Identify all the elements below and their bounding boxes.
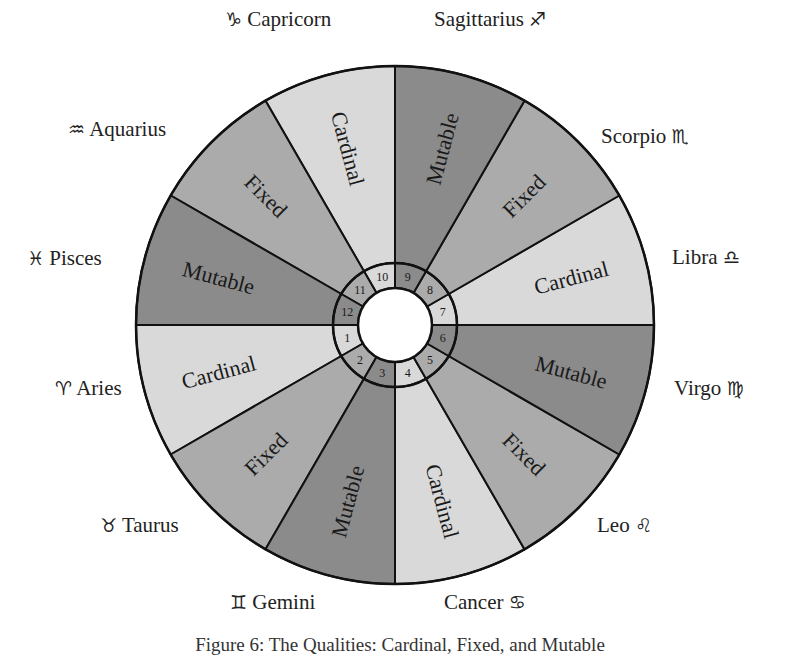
- sign-name: Pisces: [49, 246, 102, 270]
- cancer-glyph-icon: ♋: [509, 591, 526, 613]
- sign-name: Aries: [76, 376, 122, 400]
- sign-label-pisces: ♓ Pisces: [27, 248, 102, 269]
- pisces-glyph-icon: ♓: [27, 247, 44, 269]
- sign-name: Gemini: [252, 590, 315, 614]
- house-number: 4: [405, 366, 411, 380]
- house-number: 6: [440, 331, 446, 345]
- sign-name: Scorpio: [601, 124, 666, 148]
- house-number: 9: [405, 270, 411, 284]
- house-number: 3: [379, 366, 385, 380]
- libra-glyph-icon: ♎: [723, 246, 740, 268]
- house-number: 7: [440, 305, 446, 319]
- sign-label-scorpio: Scorpio ♏: [601, 126, 689, 147]
- sign-name: Taurus: [122, 513, 179, 537]
- aquarius-glyph-icon: ♒: [68, 118, 85, 140]
- sign-label-aries: ♈ Aries: [55, 378, 122, 399]
- house-number: 5: [427, 353, 433, 367]
- sign-label-leo: Leo ♌: [597, 515, 652, 536]
- sign-label-capricorn: ♑ Capricorn: [225, 9, 331, 30]
- sign-name: Libra: [672, 245, 717, 269]
- sign-label-aquarius: ♒ Aquarius: [68, 119, 166, 140]
- capricorn-glyph-icon: ♑: [225, 8, 242, 30]
- house-number: 10: [376, 270, 388, 284]
- house-number: 12: [341, 305, 353, 319]
- sign-label-taurus: ♉ Taurus: [100, 515, 179, 536]
- sign-label-virgo: Virgo ♍: [674, 378, 744, 399]
- house-number: 8: [427, 283, 433, 297]
- center-hub: [358, 288, 432, 362]
- house-number: 2: [357, 353, 363, 367]
- sagittarius-glyph-icon: ♐: [529, 8, 546, 30]
- house-number: 1: [344, 331, 350, 345]
- sign-name: Capricorn: [247, 7, 331, 31]
- leo-glyph-icon: ♌: [635, 514, 652, 536]
- taurus-glyph-icon: ♉: [100, 514, 117, 536]
- sign-name: Aquarius: [89, 117, 166, 141]
- figure-caption: Figure 6: The Qualities: Cardinal, Fixed…: [0, 634, 800, 656]
- aries-glyph-icon: ♈: [55, 377, 72, 399]
- sign-name: Virgo: [674, 376, 721, 400]
- sign-label-cancer: Cancer ♋: [444, 592, 526, 613]
- scorpio-glyph-icon: ♏: [672, 125, 689, 147]
- sign-name: Leo: [597, 513, 630, 537]
- sign-label-sagittarius: Sagittarius ♐: [434, 9, 546, 30]
- gemini-glyph-icon: ♊: [230, 591, 247, 613]
- sign-label-libra: Libra ♎: [672, 247, 740, 268]
- virgo-glyph-icon: ♍: [727, 377, 744, 399]
- sign-name: Cancer: [444, 590, 503, 614]
- house-number: 11: [354, 283, 366, 297]
- sign-name: Sagittarius: [434, 7, 524, 31]
- sign-label-gemini: ♊ Gemini: [230, 592, 315, 613]
